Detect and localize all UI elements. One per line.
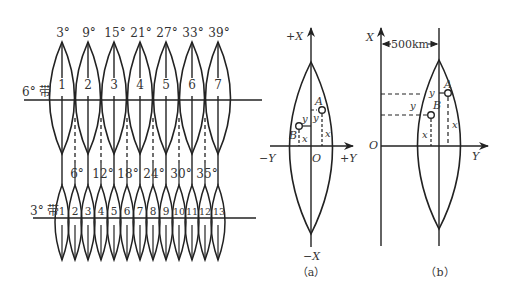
zone-division-diagram: 6° 带 3° 带 3° 9° 15° 21° 27° 33° 39° 1 2 … <box>22 26 262 260</box>
svg-text:5: 5 <box>162 78 170 92</box>
svg-text:21°: 21° <box>130 26 151 40</box>
x-axis-label-b: X <box>365 31 375 44</box>
svg-text:2: 2 <box>72 205 79 217</box>
svg-text:9°: 9° <box>82 26 96 40</box>
svg-text:12°: 12° <box>92 167 113 181</box>
point-a-label: A <box>314 95 323 108</box>
svg-text:13: 13 <box>213 206 225 217</box>
svg-text:8: 8 <box>150 205 157 217</box>
three-degree-zone-numbers: 1 2 3 4 5 6 7 8 9 10 11 12 13 <box>59 205 225 217</box>
svg-text:5: 5 <box>111 205 118 217</box>
svg-text:4: 4 <box>98 205 105 217</box>
caption-b: （b） <box>425 266 454 279</box>
offset-label: 500km <box>391 38 430 51</box>
six-degree-longitude-labels: 3° 9° 15° 21° 27° 33° 39° <box>56 26 229 40</box>
minus-y-label: −Y <box>259 152 277 165</box>
svg-text:1: 1 <box>59 205 66 217</box>
svg-text:39°: 39° <box>208 26 229 40</box>
svg-text:27°: 27° <box>156 26 177 40</box>
origin-b-label: O <box>369 139 378 152</box>
svg-text:12: 12 <box>199 206 211 217</box>
a-y-label-b: y <box>428 87 435 98</box>
y-axis-label-b: Y <box>472 150 481 163</box>
b-x-label: x <box>302 133 308 144</box>
b-y-label-b: y <box>409 100 416 111</box>
diagram-b-national-coordinates: 500km A y x B y x X O Y （b） <box>365 28 488 279</box>
svg-text:9: 9 <box>163 205 170 217</box>
svg-text:1: 1 <box>58 78 66 92</box>
svg-text:18°: 18° <box>117 167 138 181</box>
point-a-label-b: A <box>443 78 452 91</box>
a-x-label-b: x <box>452 119 458 130</box>
point-b-label: B <box>288 129 297 142</box>
point-b-label-b: B <box>432 99 441 112</box>
svg-text:6: 6 <box>188 78 196 92</box>
diagram-a-gauss-coordinates: A y x B y x +X −Y O +Y −X （a） <box>259 28 358 279</box>
three-degree-longitude-labels: 6° 12° 18° 24° 30° 35° <box>70 167 217 181</box>
svg-text:3: 3 <box>85 205 92 217</box>
b-x-label-b: x <box>422 129 428 140</box>
projection-zones-figure: 6° 带 3° 带 3° 9° 15° 21° 27° 33° 39° 1 2 … <box>0 0 505 295</box>
plus-y-label: +Y <box>340 152 358 165</box>
svg-text:24°: 24° <box>143 167 164 181</box>
caption-a: （a） <box>297 266 326 279</box>
origin-a-label: O <box>312 152 321 165</box>
svg-text:7: 7 <box>214 78 222 92</box>
svg-text:3°: 3° <box>56 26 70 40</box>
svg-text:4: 4 <box>136 78 144 92</box>
six-degree-band-label: 6° 带 <box>22 85 51 99</box>
svg-text:10: 10 <box>173 206 185 217</box>
a-y-label: y <box>312 112 319 123</box>
minus-x-label: −X <box>303 250 321 263</box>
three-degree-band-label: 3° 带 <box>30 204 59 218</box>
svg-text:6: 6 <box>124 205 131 217</box>
plus-x-label: +X <box>286 30 304 43</box>
svg-text:35°: 35° <box>196 167 217 181</box>
six-degree-zone-numbers: 1 2 3 4 5 6 7 <box>57 78 223 92</box>
svg-text:30°: 30° <box>170 167 191 181</box>
svg-text:6°: 6° <box>70 167 84 181</box>
six-degree-central-meridians <box>62 42 218 185</box>
svg-text:15°: 15° <box>104 26 125 40</box>
svg-text:33°: 33° <box>182 26 203 40</box>
point-b-marker-b <box>428 112 435 119</box>
a-x-label: x <box>325 128 331 139</box>
svg-text:11: 11 <box>186 206 198 217</box>
svg-text:2: 2 <box>84 78 92 92</box>
b-y-label: y <box>301 113 308 124</box>
svg-text:7: 7 <box>137 205 144 217</box>
svg-text:3: 3 <box>110 78 118 92</box>
